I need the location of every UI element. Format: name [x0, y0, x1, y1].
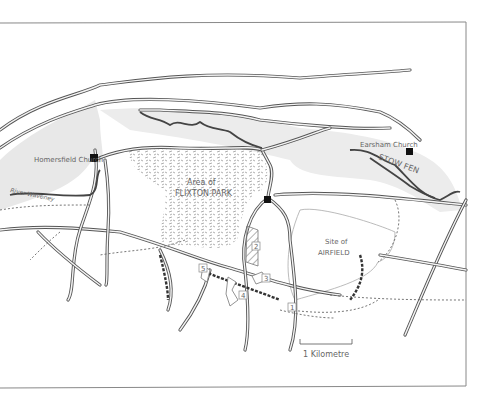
site-marker-4[interactable]: 4 [239, 291, 247, 300]
earsham-church-marker[interactable] [406, 148, 413, 155]
scale-bar: 1 Kilometre [300, 339, 352, 359]
site-marker-5[interactable]: 5 [199, 264, 207, 273]
junction-marker[interactable] [264, 196, 271, 203]
flixton-park-label-2: FLIXTON PARK [175, 189, 233, 198]
svg-text:1 Kilometre: 1 Kilometre [303, 350, 349, 359]
site-marker-2[interactable]: 2 [252, 242, 260, 251]
map: 5 2 3 4 1 Homersfield Church Earsham Chu… [0, 0, 490, 410]
site-marker-3[interactable]: 3 [262, 274, 270, 283]
svg-text:4: 4 [241, 292, 246, 300]
airfield-label-1: Site of [325, 238, 348, 246]
site-marker-1[interactable]: 1 [288, 303, 296, 312]
svg-text:5: 5 [201, 265, 205, 273]
flixton-park-label-1: Area of [187, 178, 216, 187]
svg-text:2: 2 [254, 243, 258, 251]
airfield-label-2: AIRFIELD [318, 249, 350, 257]
earsham-church-label: Earsham Church [360, 141, 418, 149]
svg-text:1: 1 [290, 304, 294, 312]
homersfield-church-label: Homersfield Church [34, 156, 103, 164]
svg-text:3: 3 [264, 275, 268, 283]
